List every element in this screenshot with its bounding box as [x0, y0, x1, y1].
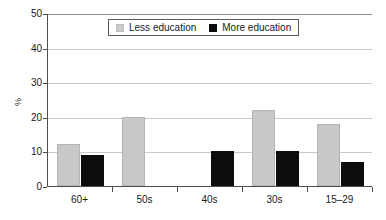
- y-axis-tick-label: 10: [22, 147, 42, 157]
- x-axis-category-label: 50s: [112, 194, 177, 206]
- y-axis-tick-labels: 01020304050: [22, 0, 42, 220]
- legend-swatch-icon: [209, 24, 217, 32]
- x-axis-tick-mark: [307, 187, 308, 192]
- x-axis-tick-mark: [177, 187, 178, 192]
- bar: [211, 151, 234, 186]
- bars-layer: [48, 14, 372, 186]
- legend-entry: Less education: [116, 22, 196, 33]
- y-axis-tick-label: 20: [22, 113, 42, 123]
- bar: [57, 144, 80, 186]
- bar: [252, 110, 275, 186]
- x-axis-category-label: 60+: [47, 194, 112, 206]
- legend-entry: More education: [209, 22, 291, 33]
- x-axis-tick-mark: [242, 187, 243, 192]
- y-axis-tick-label: 0: [22, 182, 42, 192]
- legend-label: Less education: [129, 22, 196, 33]
- bar-chart-figure: % 01020304050 60+50s40s30s15–29 Less edu…: [0, 0, 386, 220]
- y-axis-tick-label: 40: [22, 44, 42, 54]
- x-axis-category-label: 30s: [242, 194, 307, 206]
- legend-swatch-icon: [116, 24, 124, 32]
- y-axis-tick-label: 30: [22, 78, 42, 88]
- x-axis-tick-mark: [372, 187, 373, 192]
- bar: [122, 117, 145, 186]
- bar: [276, 151, 299, 186]
- x-axis-tick-mark: [112, 187, 113, 192]
- bar: [317, 124, 340, 186]
- plot-area: [47, 14, 372, 187]
- chart-legend: Less educationMore education: [108, 19, 299, 36]
- bar: [81, 155, 104, 186]
- x-axis-category-label: 15–29: [307, 194, 372, 206]
- legend-label: More education: [222, 22, 291, 33]
- x-axis-category-labels: 60+50s40s30s15–29: [47, 194, 372, 212]
- bar: [341, 162, 364, 186]
- y-axis-tick-label: 50: [22, 9, 42, 19]
- x-axis-category-label: 40s: [177, 194, 242, 206]
- x-axis-tick-marks: [47, 187, 372, 192]
